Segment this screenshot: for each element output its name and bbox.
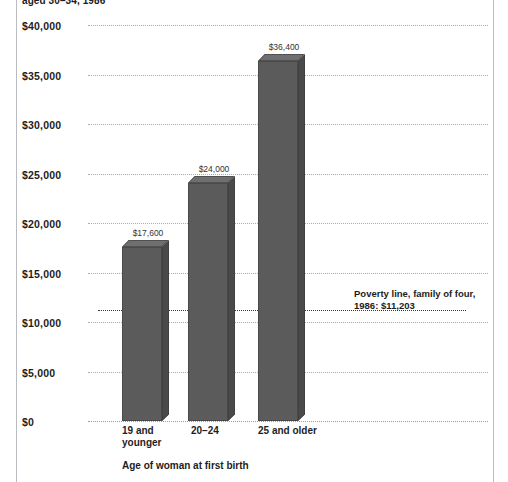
ytick-label-40000: $40,000 — [22, 20, 61, 32]
chart-title: aged 30–34, 1986 — [22, 0, 105, 6]
bar-25-and-older[interactable]: $36,400 — [258, 61, 298, 421]
ytick-label-15000: $15,000 — [22, 268, 61, 280]
bar-front-face-2 — [188, 183, 228, 421]
bar-front-face-1 — [122, 247, 162, 421]
ytick-label-30000: $30,000 — [22, 119, 61, 131]
xtick-label-19-and-younger: 19 and younger — [122, 425, 161, 449]
poverty-line-label-line2: 1986: $11,203 — [354, 300, 415, 312]
plot-area: Poverty line, family of four, 1986: $11,… — [88, 25, 488, 421]
bar-side-face-2 — [228, 177, 235, 421]
page-right-rule — [493, 0, 494, 482]
ytick-label-20000: $20,000 — [22, 218, 61, 230]
gridline-0 — [88, 421, 488, 422]
bar-value-label-2: $24,000 — [174, 164, 254, 174]
bar-value-label-1: $17,600 — [108, 228, 188, 238]
bar-value-label-3: $36,400 — [244, 42, 324, 52]
xtick-label-25-and-older: 25 and older — [258, 425, 317, 437]
ytick-label-0: $0 — [22, 416, 34, 428]
bar-19-and-younger[interactable]: $17,600 — [122, 247, 162, 421]
page-left-rule — [16, 0, 17, 482]
bar-side-face-1 — [162, 240, 169, 421]
xtick-label-20-24: 20–24 — [191, 425, 219, 437]
poverty-line-label-line1: Poverty line, family of four, — [354, 288, 475, 300]
ytick-label-35000: $35,000 — [22, 70, 61, 82]
ytick-label-10000: $10,000 — [22, 317, 61, 329]
bar-front-face-3 — [258, 61, 298, 421]
gridline-40000 — [88, 25, 488, 26]
bar-20-24[interactable]: $24,000 — [188, 183, 228, 421]
xaxis-title: Age of woman at first birth — [122, 460, 249, 471]
ytick-label-5000: $5,000 — [22, 367, 55, 379]
ytick-label-25000: $25,000 — [22, 169, 61, 181]
chart-page: aged 30–34, 1986 Poverty line, family of… — [0, 0, 508, 482]
bar-side-face-3 — [298, 54, 305, 421]
